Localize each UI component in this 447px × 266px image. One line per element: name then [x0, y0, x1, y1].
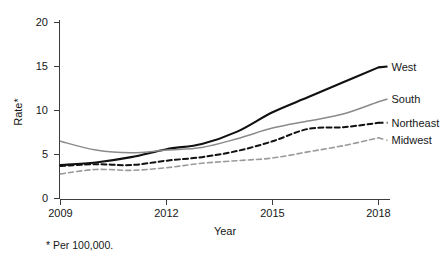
- line-chart-canvas: 20 15 10 5 0 2009 2012 2015 2018 Year Ra…: [0, 0, 447, 266]
- series-label-south: South: [392, 93, 421, 105]
- chart-figure: 20 15 10 5 0 2009 2012 2015 2018 Year Ra…: [0, 0, 447, 266]
- x-tick-label-2015: 2015: [260, 207, 284, 219]
- y-axis-title: Rate*: [12, 98, 24, 126]
- series-leader-west: [379, 67, 388, 68]
- series-paths-group: [61, 67, 379, 173]
- series-leader-south: [379, 99, 388, 102]
- series-line-northeast: [61, 123, 379, 166]
- y-tick-label-10: 10: [36, 104, 48, 116]
- series-label-west: West: [392, 61, 417, 73]
- x-tick-marks: [61, 200, 379, 206]
- series-label-midwest: Midwest: [392, 134, 432, 146]
- y-tick-label-15: 15: [36, 60, 48, 72]
- x-tick-label-2009: 2009: [48, 207, 72, 219]
- x-tick-label-2012: 2012: [154, 207, 178, 219]
- y-tick-label-5: 5: [42, 148, 48, 160]
- x-tick-label-2018: 2018: [366, 207, 390, 219]
- footnote: * Per 100,000.: [46, 239, 113, 251]
- y-tick-label-20: 20: [36, 16, 48, 28]
- y-tick-marks: [54, 23, 60, 199]
- y-tick-label-0: 0: [42, 192, 48, 204]
- x-axis-title: Year: [214, 225, 237, 237]
- series-leader-midwest: [379, 138, 388, 141]
- series-label-northeast: Northeast: [392, 117, 440, 129]
- series-labels-group: WestSouthNortheastMidwest: [379, 61, 440, 147]
